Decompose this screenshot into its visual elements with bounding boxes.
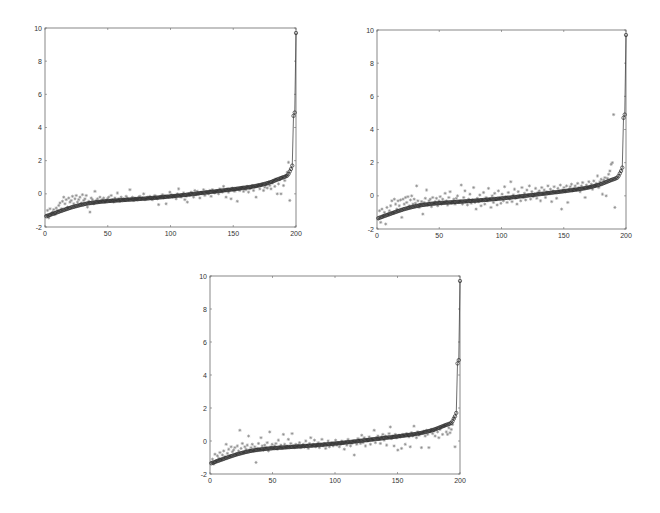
x-tick-label: 100 bbox=[329, 477, 341, 484]
y-tick-label: -2 bbox=[201, 471, 207, 478]
true-value-series bbox=[210, 279, 462, 465]
x-tick-label: 0 bbox=[208, 477, 212, 484]
x-tick-label: 50 bbox=[269, 477, 277, 484]
y-tick-label: 6 bbox=[203, 339, 207, 346]
estimate-series bbox=[210, 416, 457, 465]
y-tick-label: 2 bbox=[203, 405, 207, 412]
x-tick-label: 150 bbox=[392, 477, 404, 484]
y-tick-label: 10 bbox=[199, 273, 207, 280]
x-tick-label: 200 bbox=[454, 477, 466, 484]
chart-svg: 050100150200-20246810 bbox=[0, 0, 660, 513]
y-tick-label: 8 bbox=[203, 306, 207, 313]
y-tick-label: 0 bbox=[203, 438, 207, 445]
y-tick-label: 4 bbox=[203, 372, 207, 379]
